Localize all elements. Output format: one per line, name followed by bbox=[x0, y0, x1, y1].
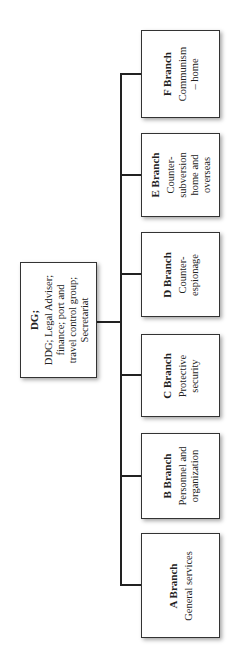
dg-title: DG; bbox=[27, 264, 40, 376]
a-branch-box: A Branch General services bbox=[141, 533, 220, 638]
e-branch-desc: Counter-subversion home and overseas bbox=[164, 147, 212, 203]
b-branch-title: B Branch bbox=[161, 436, 174, 516]
c-branch-title: C Branch bbox=[161, 337, 174, 415]
dg-line-2: finance; port and bbox=[54, 264, 66, 376]
f-connector-line bbox=[120, 73, 141, 75]
d-branch-title: D Branch bbox=[161, 236, 174, 314]
e-connector-line bbox=[120, 174, 141, 176]
c-branch-desc: Protective security bbox=[176, 350, 200, 402]
dg-connector-line bbox=[97, 321, 121, 323]
f-branch-desc: Communism – home bbox=[176, 43, 200, 105]
d-branch-desc: Counter-espionage bbox=[176, 250, 200, 300]
d-branch-box: D Branch Counter-espionage bbox=[141, 232, 220, 317]
c-connector-line bbox=[120, 374, 141, 376]
f-branch-box: F Branch Communism – home bbox=[141, 30, 220, 118]
d-connector-line bbox=[120, 273, 141, 275]
dg-box: DG; DDG; Legal Adviser; finance; port an… bbox=[20, 262, 97, 378]
dg-line-3: travel control group; bbox=[66, 264, 78, 376]
a-branch-desc: General services bbox=[182, 536, 194, 636]
f-branch-title: F Branch bbox=[161, 34, 174, 114]
b-branch-desc: Personnel and organization bbox=[176, 440, 200, 512]
a-branch-title: A Branch bbox=[167, 536, 180, 636]
c-branch-box: C Branch Protective security bbox=[141, 334, 220, 417]
e-branch-box: E Branch Counter-subversion home and ove… bbox=[141, 133, 220, 217]
dg-line-4: Secretariat bbox=[78, 264, 90, 376]
b-connector-line bbox=[120, 475, 141, 477]
e-branch-title: E Branch bbox=[149, 136, 162, 214]
vertical-bus-line bbox=[120, 73, 122, 585]
b-branch-box: B Branch Personnel and organization bbox=[141, 433, 220, 519]
a-connector-line bbox=[120, 584, 141, 586]
dg-line-1: DDG; Legal Adviser; bbox=[42, 264, 54, 376]
